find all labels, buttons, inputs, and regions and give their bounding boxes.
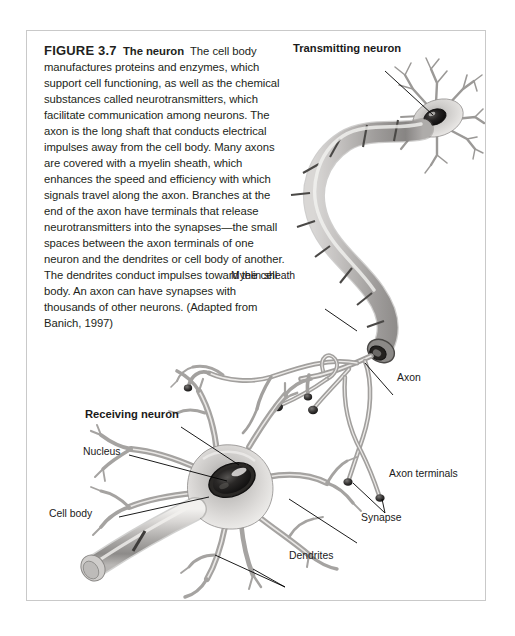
leader-myelin-sheath — [325, 309, 357, 331]
axon-terminal-knob-labelled — [375, 494, 384, 502]
myelinated-axon — [291, 120, 423, 367]
leader-transmitting-neuron — [385, 71, 433, 115]
label-cell-body: Cell body — [49, 509, 92, 519]
figure-panel: FIGURE 3.7 The neuron The cell body manu… — [26, 30, 486, 601]
leader-synapse — [289, 499, 357, 543]
label-dendrites: Dendrites — [289, 551, 333, 561]
label-synapse: Synapse — [361, 513, 401, 523]
axon-highlight — [315, 124, 421, 290]
label-axon-terminals: Axon terminals — [389, 469, 458, 479]
transmitting-neuron — [395, 58, 484, 173]
label-myelin-sheath: Myelin sheath — [231, 271, 295, 281]
axon-terminal-knob — [308, 406, 318, 414]
label-receiving-neuron: Receiving neuron — [85, 409, 179, 420]
receiving-neuron-axon — [76, 505, 195, 586]
label-axon: Axon — [397, 373, 421, 383]
axon-terminal-knob-labelled — [343, 478, 352, 486]
neuron-diagram — [27, 31, 485, 600]
axon-terminal-knob — [184, 385, 192, 392]
axon-terminal-knob — [304, 394, 312, 401]
label-transmitting-neuron: Transmitting neuron — [293, 43, 401, 54]
label-nucleus: Nucleus — [83, 447, 121, 457]
